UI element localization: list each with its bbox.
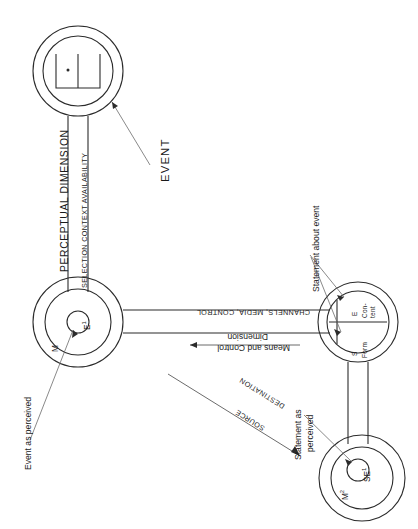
selection-context-availability-label: SELECTION CONTEXT AVAILABILITY: [81, 153, 88, 288]
perceptual-dimension-label: PERCEPTUAL DIMENSION: [60, 129, 70, 272]
observer-ring-label: M: [52, 345, 60, 352]
message-content-tag: E: [352, 311, 358, 316]
means-and-control-label: Means and Control: [217, 343, 290, 352]
statement-as-perceived-label-1: Statement as: [294, 409, 303, 460]
figure-canvas: EVENT PERCEPTUAL DIMENSION SELECTION CON…: [0, 0, 418, 529]
receiver-ring-label: M2: [340, 490, 350, 500]
statement-as-perceived-arrowhead: [345, 459, 352, 466]
event-centre-dot: [67, 69, 70, 72]
observer-outer-circle: [33, 277, 123, 367]
statement-about-event-label: Statement about event: [312, 206, 321, 292]
message-content-label-1: Con-: [362, 303, 368, 318]
event-callout-arrowhead: [112, 102, 118, 109]
receiver-core-letters: SE: [363, 471, 372, 482]
channels-media-control-label: CHANNELS, MEDIA, CONTROL: [197, 309, 310, 316]
transmission-flow-arrow-head: [190, 342, 197, 348]
receiver-ring-superscript: 2: [339, 490, 345, 493]
event-callout-label: EVENT: [160, 139, 171, 182]
message-form-label: Form: [362, 342, 368, 358]
message-content-label-2: tent: [370, 306, 376, 318]
receiver-ring-letter: M: [341, 493, 350, 500]
observer-core-superscript: 1: [81, 321, 87, 324]
observer-core-label: E1: [82, 321, 92, 330]
receiver-core-label: SE1: [362, 468, 372, 482]
event-callout-leader: [112, 102, 150, 165]
means-and-control-dimension-label: Dimension: [227, 332, 268, 341]
event-as-perceived-label: Event as perceived: [24, 397, 33, 470]
statement-as-perceived-label-2: perceived: [306, 415, 315, 452]
receiver-core-superscript: 1: [361, 468, 367, 471]
message-form-tag: S: [352, 351, 358, 356]
observer-core-letter: E: [83, 325, 92, 330]
event-as-perceived-arrowhead: [72, 330, 78, 338]
